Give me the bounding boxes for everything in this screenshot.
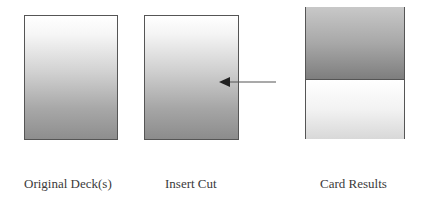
arrow-left-icon	[219, 76, 277, 88]
card-results-bottom-half	[305, 79, 405, 139]
original-deck-label: Original Deck(s)	[24, 176, 112, 192]
insert-cut-label: Insert Cut	[165, 176, 217, 192]
card-results-label: Card Results	[320, 176, 387, 192]
original-deck-card	[24, 15, 118, 140]
card-results-top-half	[305, 7, 405, 80]
